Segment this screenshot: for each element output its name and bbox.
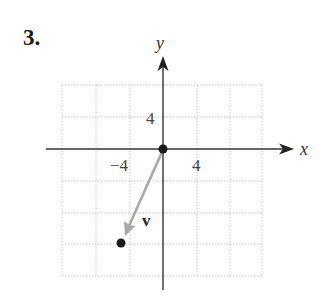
grid [62, 85, 262, 276]
origin-point [159, 145, 168, 154]
x-tick-label-neg4: −4 [110, 156, 129, 175]
x-axis-label: x [299, 139, 308, 159]
terminal-point [117, 239, 126, 248]
vector-figure: 3. x y [0, 0, 331, 296]
y-axis [158, 56, 169, 290]
vector-label: v [142, 211, 151, 230]
coordinate-plane: x y −4 4 4 v [0, 0, 331, 296]
x-axis [46, 144, 294, 155]
x-tick-label-4: 4 [192, 156, 201, 175]
y-axis-label: y [154, 33, 164, 53]
y-tick-label-4: 4 [146, 109, 155, 128]
